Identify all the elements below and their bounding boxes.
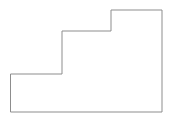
figure-canvas — [0, 0, 171, 120]
stepped-polygon-drawing — [0, 0, 171, 120]
stepped-polygon-shape — [11, 10, 162, 112]
